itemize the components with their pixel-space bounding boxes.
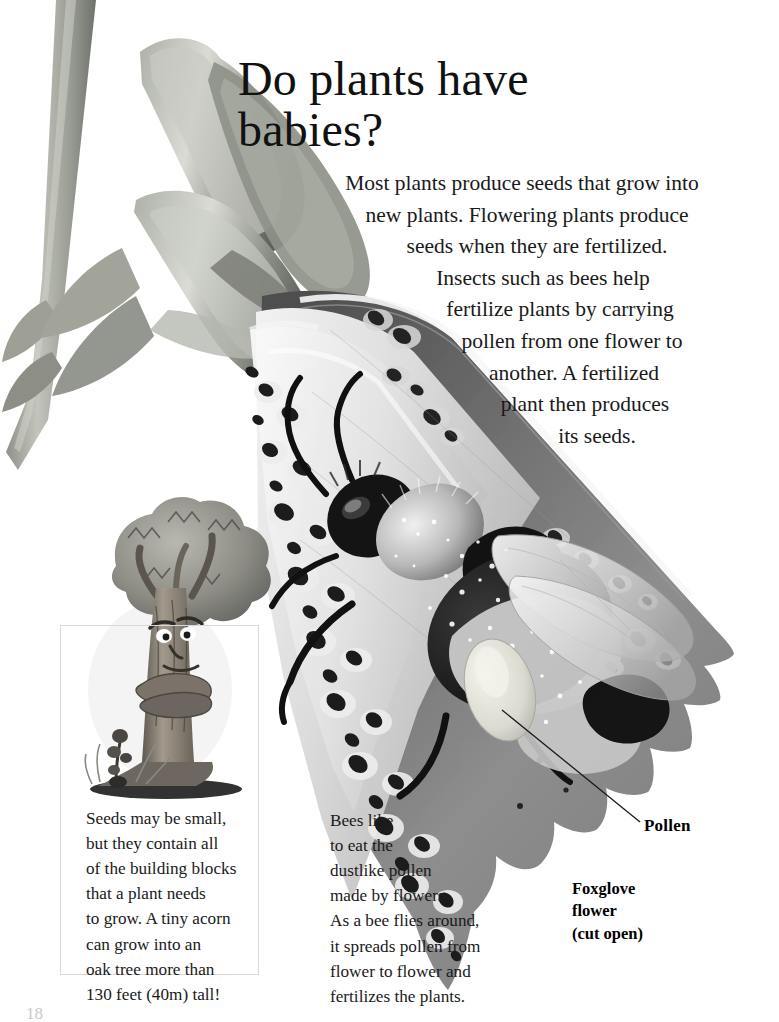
caption-bees-line: fertilizes the plants.	[330, 984, 510, 1009]
caption-bees-line: to eat the	[330, 833, 510, 858]
label-foxglove-line: flower	[572, 900, 722, 922]
lead-line: seeds when they are fertilized.	[296, 231, 748, 263]
caption-bees-line: made by flowers.	[330, 883, 510, 908]
caption-bees-line: it spreads pollen from	[330, 934, 510, 959]
lead-line: pollen from one flower to	[296, 326, 748, 358]
pollen-sac	[453, 631, 547, 750]
lead-line: Insects such as bees help	[296, 263, 748, 295]
caption-bees-line: Bees like	[330, 808, 510, 833]
label-foxglove-line: (cut open)	[572, 923, 722, 945]
page-title-line-2: babies?	[238, 105, 668, 156]
caption-bees-line: dustlike pollen	[330, 858, 510, 883]
caption-bees: Bees like to eat the dustlike pollen mad…	[330, 808, 510, 1009]
page-title: Do plants have babies?	[238, 54, 668, 156]
caption-acorn-line: oak tree more than	[86, 957, 266, 982]
lead-line: its seeds.	[296, 421, 748, 453]
lead-line: fertilize plants by carrying	[296, 294, 748, 326]
lead-line: Most plants produce seeds that grow into	[296, 168, 748, 200]
caption-acorn-line: to grow. A tiny acorn	[86, 906, 266, 931]
lead-paragraph: Most plants produce seeds that grow into…	[296, 168, 748, 452]
caption-bees-line: As a bee flies around,	[330, 908, 510, 933]
bee-wings	[492, 535, 695, 700]
caption-bees-line: flower to flower and	[330, 959, 510, 984]
caption-acorn-line: Seeds may be small,	[86, 806, 266, 831]
label-foxglove: Foxglove flower (cut open)	[572, 878, 722, 945]
page-title-line-1: Do plants have	[238, 52, 529, 105]
caption-acorn: Seeds may be small, but they contain all…	[86, 806, 266, 1007]
label-pollen: Pollen	[644, 816, 691, 836]
page-number: 18	[26, 1004, 43, 1022]
lead-line: another. A fertilized	[296, 358, 748, 390]
caption-acorn-line: that a plant needs	[86, 881, 266, 906]
caption-acorn-line: but they contain all	[86, 831, 266, 856]
caption-acorn-line: can grow into an	[86, 932, 266, 957]
caption-acorn-line: 130 feet (40m) tall!	[86, 982, 266, 1007]
book-page: Do plants have babies? Most plants produ…	[0, 0, 779, 1022]
lead-line: plant then produces	[296, 389, 748, 421]
label-foxglove-line: Foxglove	[572, 878, 722, 900]
lead-line: new plants. Flowering plants produce	[296, 200, 748, 232]
flower-stem	[2, 0, 96, 470]
caption-acorn-line: of the building blocks	[86, 856, 266, 881]
pollen-leader-line	[502, 710, 640, 822]
